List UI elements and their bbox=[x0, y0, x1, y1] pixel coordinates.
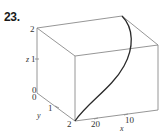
space-curve bbox=[75, 16, 131, 121]
x-tick-label-20: 20 bbox=[91, 119, 101, 129]
z-tick-label-1: 1 bbox=[31, 54, 36, 64]
y-tick-label-1: 1 bbox=[48, 103, 53, 113]
y-axis-label: y bbox=[36, 111, 41, 120]
y-tick-label-2: 2 bbox=[67, 119, 72, 129]
z-axis-label: z bbox=[25, 55, 30, 64]
box-plot: 2 z 1 0 0 1 y 2 20 10 x bbox=[0, 0, 166, 134]
bounding-box bbox=[35, 16, 158, 121]
problem-number: 23. bbox=[4, 10, 20, 24]
x-axis-label: x bbox=[119, 124, 124, 133]
y-tick-label-0: 0 bbox=[32, 92, 37, 102]
top-left-edge bbox=[37, 28, 75, 56]
x-tick-label-10: 10 bbox=[125, 115, 135, 125]
front-top-edge bbox=[75, 45, 158, 56]
top-right-edge bbox=[122, 16, 158, 45]
z-tick-label-2: 2 bbox=[30, 24, 35, 34]
x-axis-line bbox=[75, 110, 158, 121]
top-back-edge bbox=[37, 16, 122, 28]
3d-curve-figure: 23. 2 z 1 0 bbox=[0, 0, 166, 134]
